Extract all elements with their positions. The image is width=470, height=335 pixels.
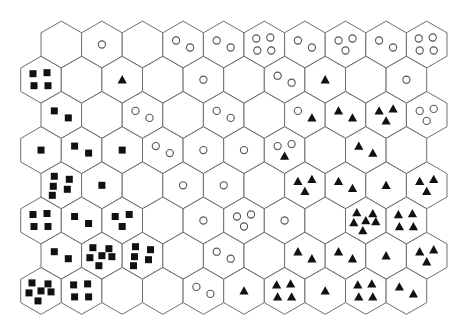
square-marker-icon [51,248,58,255]
square-marker-icon [71,213,78,220]
square-marker-icon [85,220,92,227]
square-marker-icon [64,186,71,193]
square-marker-icon [44,210,51,217]
square-marker-icon [84,280,91,287]
square-marker-icon [108,253,115,260]
square-marker-icon [45,82,52,89]
square-marker-icon [89,244,96,251]
square-marker-icon [126,211,133,218]
square-marker-icon [147,246,154,253]
square-marker-icon [45,280,52,287]
square-marker-icon [95,262,102,269]
square-marker-icon [30,70,37,77]
square-marker-icon [29,279,36,286]
square-marker-icon [119,223,126,230]
square-marker-icon [119,147,126,154]
square-marker-icon [85,293,92,300]
square-marker-icon [50,183,57,190]
square-marker-icon [130,262,137,269]
square-marker-icon [86,254,93,261]
square-marker-icon [38,147,45,154]
square-marker-icon [112,213,119,220]
square-marker-icon [98,252,105,259]
square-marker-icon [131,253,138,260]
square-marker-icon [45,223,52,230]
som-hex-grid [0,0,470,335]
square-marker-icon [65,114,72,121]
square-marker-icon [145,256,152,263]
square-marker-icon [85,150,92,157]
square-marker-icon [38,287,45,294]
square-marker-icon [26,289,33,296]
square-marker-icon [51,107,58,114]
square-marker-icon [31,82,38,89]
square-marker-icon [31,223,38,230]
square-marker-icon [105,245,112,252]
square-marker-icon [44,69,51,76]
square-marker-icon [30,211,37,218]
square-marker-icon [66,176,73,183]
square-marker-icon [70,281,77,288]
square-marker-icon [71,293,78,300]
square-marker-icon [48,288,55,295]
square-marker-icon [35,297,42,304]
square-marker-icon [51,173,58,180]
hex-cells-layer [21,21,447,314]
square-marker-icon [132,243,139,250]
square-marker-icon [49,192,56,199]
square-marker-icon [71,143,78,150]
square-marker-icon [65,255,72,262]
square-marker-icon [98,182,105,189]
